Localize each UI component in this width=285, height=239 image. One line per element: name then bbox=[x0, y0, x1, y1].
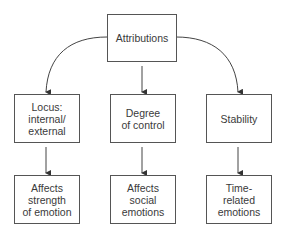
category-node-label: Stability bbox=[221, 113, 258, 125]
effect-node-time: Time- related emotions bbox=[206, 175, 272, 224]
root-node-attributions: Attributions bbox=[107, 14, 177, 62]
effect-node-social: Affects social emotions bbox=[110, 175, 176, 224]
category-node-label: Degree of control bbox=[121, 107, 164, 131]
effect-node-label: Time- related emotions bbox=[218, 182, 261, 218]
arrow-root-to-locus bbox=[46, 37, 107, 92]
effect-node-label: Affects social emotions bbox=[122, 182, 165, 218]
effect-node-label: Affects strength of emotion bbox=[22, 182, 71, 218]
category-node-label: Locus: internal/ external bbox=[28, 101, 65, 137]
category-node-locus: Locus: internal/ external bbox=[14, 94, 80, 143]
root-node-label: Attributions bbox=[116, 32, 169, 44]
arrow-root-to-stability bbox=[176, 37, 238, 92]
effect-node-strength: Affects strength of emotion bbox=[14, 175, 80, 224]
category-node-control: Degree of control bbox=[110, 94, 176, 143]
category-node-stability: Stability bbox=[206, 94, 272, 143]
